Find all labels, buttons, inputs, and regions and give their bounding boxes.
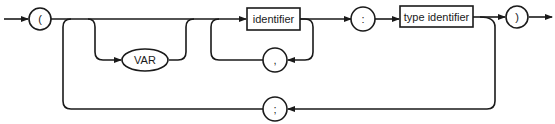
type-identifier-label: type identifier <box>404 11 470 23</box>
var-branch-out <box>169 19 194 60</box>
var-label: VAR <box>134 54 156 66</box>
semicolon-node: ; <box>263 97 287 121</box>
open-paren-label: ( <box>38 13 42 25</box>
comma-node: , <box>263 48 287 72</box>
comma-label: , <box>273 54 276 66</box>
var-branch-in <box>88 19 121 60</box>
syntax-diagram: ( VAR identifier , : type identifier ) ; <box>0 0 555 124</box>
colon-node: : <box>351 7 375 31</box>
close-paren-node: ) <box>506 6 528 28</box>
type-identifier-node: type identifier <box>400 6 473 27</box>
semicolon-label: ; <box>273 103 276 115</box>
close-paren-label: ) <box>515 11 519 23</box>
identifier-node: identifier <box>247 8 300 30</box>
identifier-label: identifier <box>253 13 295 25</box>
semicolon-loop-right <box>288 17 495 109</box>
open-paren-node: ( <box>29 8 51 30</box>
colon-label: : <box>361 13 364 25</box>
var-keyword-node: VAR <box>122 49 168 71</box>
